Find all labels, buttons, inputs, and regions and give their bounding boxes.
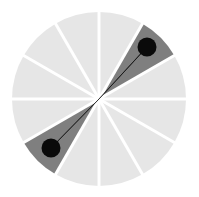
gauge-container: Radial sector gauge	[0, 0, 199, 197]
marker-b-dot-icon[interactable]	[42, 139, 61, 158]
radial-gauge-chart	[0, 0, 199, 197]
marker-a-dot-icon[interactable]	[138, 38, 157, 57]
